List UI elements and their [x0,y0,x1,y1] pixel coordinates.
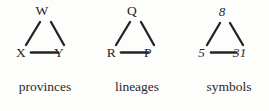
triangle-diagram-figure: W X Y provinces Q R P lineages [0,0,269,111]
node-label-left: R [82,46,116,59]
triangle-diagram-provinces: W X Y [0,0,90,68]
triad-group-provinces: W X Y provinces [0,0,90,111]
edge-left-apex [116,22,130,45]
edge-left-apex [207,23,220,45]
edge-apex-right [230,23,243,45]
triangle-diagram-symbols: 8 5 31 [180,0,269,68]
node-label-apex: Q [112,4,152,17]
node-label-left: 5 [171,46,205,59]
node-label-right: 31 [233,46,267,59]
caption-provinces: provinces [0,79,90,95]
caption-lineages: lineages [92,79,182,95]
node-label-apex: 8 [202,5,242,18]
triangle-diagram-lineages: Q R P [90,0,180,68]
caption-symbols: symbols [184,79,269,95]
edge-left-apex [26,22,40,45]
edge-apex-right [141,22,154,45]
triad-group-symbols: 8 5 31 symbols [180,0,269,111]
triad-group-lineages: Q R P lineages [90,0,180,111]
edge-apex-right [51,22,64,45]
node-label-left: X [0,46,26,59]
node-label-apex: W [22,4,62,17]
